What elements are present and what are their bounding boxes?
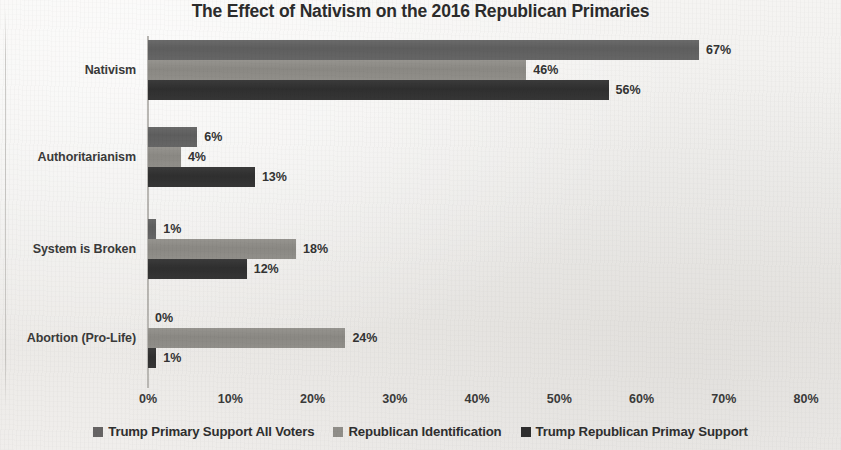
bar[interactable]: [148, 239, 296, 259]
legend-label: Trump Primary Support All Voters: [108, 424, 314, 439]
bar-value-label: 1%: [163, 222, 181, 236]
bar-row: 18%: [148, 239, 806, 259]
category-label: Authoritarianism: [38, 150, 136, 164]
bar-value-label: 18%: [303, 242, 328, 256]
plot-area: Nativism67%46%56%Authoritarianism6%4%13%…: [148, 36, 806, 388]
legend-item[interactable]: Republican Identification: [333, 424, 501, 439]
legend-label: Republican Identification: [348, 424, 501, 439]
chart-container: The Effect of Nativism on the 2016 Repub…: [0, 0, 841, 450]
bar-value-label: 56%: [616, 83, 641, 97]
bar-value-label: 13%: [262, 170, 287, 184]
category-group: Authoritarianism6%4%13%: [148, 127, 806, 187]
category-label: System is Broken: [33, 242, 136, 256]
category-group: Nativism67%46%56%: [148, 40, 806, 100]
legend-item[interactable]: Trump Primary Support All Voters: [93, 424, 314, 439]
bar-row: 1%: [148, 348, 806, 368]
legend-swatch-icon: [521, 427, 531, 437]
category-group: Abortion (Pro-Life)0%24%1%: [148, 308, 806, 368]
bar[interactable]: [148, 219, 156, 239]
bar-value-label: 0%: [155, 311, 173, 325]
bar-value-label: 12%: [254, 262, 279, 276]
bar[interactable]: [148, 348, 156, 368]
x-axis-tick-label: 0%: [139, 392, 157, 406]
legend-swatch-icon: [93, 427, 103, 437]
bar-value-label: 4%: [188, 150, 206, 164]
x-axis-tick-label: 80%: [793, 392, 818, 406]
scan-edge-line: [5, 8, 6, 408]
bar-row: 0%: [148, 308, 806, 328]
bar[interactable]: [148, 167, 255, 187]
category-label: Abortion (Pro-Life): [27, 331, 136, 345]
legend-label: Trump Republican Primay Support: [536, 424, 748, 439]
bar[interactable]: [148, 259, 247, 279]
bar-value-label: 67%: [706, 43, 731, 57]
bar-row: 12%: [148, 259, 806, 279]
x-axis-tick-label: 20%: [300, 392, 325, 406]
x-axis-tick-label: 60%: [629, 392, 654, 406]
x-axis-tick-label: 70%: [711, 392, 736, 406]
bar[interactable]: [148, 328, 345, 348]
bar[interactable]: [148, 60, 526, 80]
category-group: System is Broken1%18%12%: [148, 219, 806, 279]
x-axis-tick-label: 40%: [464, 392, 489, 406]
bar[interactable]: [148, 147, 181, 167]
bar[interactable]: [148, 80, 609, 100]
x-axis-tick-label: 50%: [547, 392, 572, 406]
legend-swatch-icon: [333, 427, 343, 437]
bar-value-label: 24%: [352, 331, 377, 345]
bar-row: 46%: [148, 60, 806, 80]
bar-value-label: 1%: [163, 351, 181, 365]
bar-row: 13%: [148, 167, 806, 187]
bar-row: 56%: [148, 80, 806, 100]
x-axis-ticks: 0%10%20%30%40%50%60%70%80%: [148, 392, 806, 412]
bar[interactable]: [148, 127, 197, 147]
legend-item[interactable]: Trump Republican Primay Support: [521, 424, 748, 439]
bar-row: 24%: [148, 328, 806, 348]
bar-row: 1%: [148, 219, 806, 239]
bar[interactable]: [148, 40, 699, 60]
bar-value-label: 46%: [533, 63, 558, 77]
x-axis-tick-label: 10%: [218, 392, 243, 406]
chart-title: The Effect of Nativism on the 2016 Repub…: [0, 1, 841, 22]
bar-row: 67%: [148, 40, 806, 60]
category-label: Nativism: [85, 63, 136, 77]
bar-row: 4%: [148, 147, 806, 167]
chart-legend: Trump Primary Support All VotersRepublic…: [0, 424, 841, 439]
bar-row: 6%: [148, 127, 806, 147]
bar-value-label: 6%: [204, 130, 222, 144]
x-axis-tick-label: 30%: [382, 392, 407, 406]
